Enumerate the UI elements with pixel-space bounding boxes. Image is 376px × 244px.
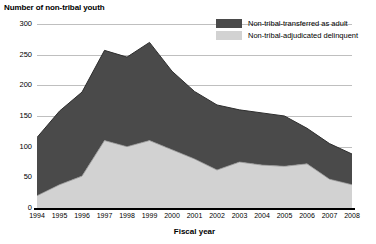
y-tick-label: 250 bbox=[19, 51, 32, 59]
plot-area: 050100150200250300 199419951996199719981… bbox=[37, 24, 352, 208]
legend-swatch-light bbox=[216, 31, 242, 40]
x-tick-label: 2003 bbox=[232, 212, 248, 219]
x-tick-label: 2000 bbox=[164, 212, 180, 219]
x-tick-label: 2007 bbox=[322, 212, 338, 219]
x-tick-label: 1996 bbox=[74, 212, 90, 219]
x-tick-label: 2006 bbox=[299, 212, 315, 219]
x-tick-label: 2004 bbox=[254, 212, 270, 219]
legend-label-transferred-as-adult: Non-tribal-transferred as adult bbox=[248, 20, 348, 28]
x-tick-label: 2001 bbox=[187, 212, 203, 219]
x-tick-label: 2005 bbox=[277, 212, 293, 219]
x-axis-line bbox=[34, 208, 355, 210]
y-tick-label: 200 bbox=[19, 82, 32, 90]
x-tick-label: 1997 bbox=[97, 212, 113, 219]
area-chart: Number of non-tribal youth 0501001502002… bbox=[0, 0, 376, 244]
x-tick-label: 2008 bbox=[344, 212, 360, 219]
x-tick-label: 1998 bbox=[119, 212, 135, 219]
x-axis-title: Fiscal year bbox=[37, 227, 352, 236]
y-tick-label: 50 bbox=[24, 174, 32, 182]
y-tick-label: 150 bbox=[19, 112, 32, 120]
legend-swatch-dark bbox=[216, 19, 242, 28]
legend-label-adjudicated-delinquent: Non-tribal-adjudicated delinquent bbox=[248, 32, 358, 40]
chart-legend: Non-tribal-transferred as adult Non-trib… bbox=[216, 19, 358, 40]
x-tick-label: 1995 bbox=[52, 212, 68, 219]
x-tick-label: 2002 bbox=[209, 212, 225, 219]
legend-item-adjudicated-delinquent: Non-tribal-adjudicated delinquent bbox=[216, 31, 358, 40]
x-tick-label: 1994 bbox=[29, 212, 45, 219]
legend-item-transferred-as-adult: Non-tribal-transferred as adult bbox=[216, 19, 358, 28]
series-areas bbox=[37, 24, 352, 208]
y-tick-label: 0 bbox=[28, 204, 32, 212]
y-tick-label: 100 bbox=[19, 143, 32, 151]
y-axis-title: Number of non-tribal youth bbox=[4, 3, 105, 12]
y-tick-label: 300 bbox=[19, 20, 32, 28]
x-tick-label: 1999 bbox=[142, 212, 158, 219]
